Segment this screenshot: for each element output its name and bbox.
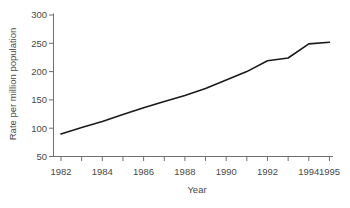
- x-tick-label: 1988: [174, 166, 195, 177]
- y-tick-label: 100: [31, 123, 47, 134]
- y-tick-label: 200: [31, 66, 47, 77]
- x-axis-title: Year: [187, 185, 206, 195]
- y-tick-label: 300: [31, 9, 47, 20]
- x-tick-label: 1986: [133, 166, 154, 177]
- x-axis: 19821984198619881990199219941995: [50, 157, 340, 177]
- line-chart-figure: Rate per million population 501001502002…: [0, 0, 350, 208]
- x-tick-label: 1995: [319, 166, 340, 177]
- y-tick-label: 50: [36, 151, 47, 162]
- data-series: [61, 42, 329, 134]
- x-tick-label: 1994: [298, 166, 319, 177]
- x-tick-label: 1990: [216, 166, 237, 177]
- y-tick-label: 250: [31, 38, 47, 49]
- x-tick-label: 1982: [50, 166, 71, 177]
- y-tick-label: 150: [31, 94, 47, 105]
- data-line: [61, 42, 329, 134]
- line-chart-svg: 50100150200250300 1982198419861988199019…: [0, 0, 350, 208]
- y-axis: 50100150200250300: [31, 9, 53, 162]
- x-tick-label: 1992: [257, 166, 278, 177]
- x-tick-label: 1984: [92, 166, 113, 177]
